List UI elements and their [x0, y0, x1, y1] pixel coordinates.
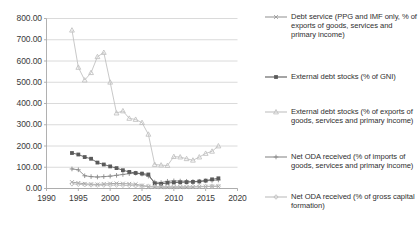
data-marker	[96, 161, 100, 165]
data-marker	[102, 163, 106, 167]
legend-item-label: Debt service (PPG and IMF only, % of exp…	[291, 12, 417, 39]
series-3	[70, 28, 221, 168]
x-axis-tick-label: 2020	[218, 193, 258, 203]
data-marker	[108, 165, 112, 169]
data-marker	[217, 176, 221, 180]
y-axis-tick-label: 0.00	[0, 183, 42, 193]
legend-item-label: Net ODA received (% of gross capital for…	[291, 192, 417, 210]
data-marker	[134, 171, 138, 175]
y-axis-tick-label: 100.00	[0, 162, 42, 172]
legend-marker-diamond-icon	[265, 192, 287, 202]
series-2	[70, 151, 220, 186]
series-line	[72, 169, 218, 183]
legend-item-5[interactable]: Net ODA received (% of gross capital for…	[265, 192, 417, 210]
legend-item-label: Net ODA received (% of imports of goods,…	[291, 152, 417, 170]
legend-marker-cross-bar-icon	[265, 152, 287, 162]
data-marker	[127, 170, 131, 174]
y-axis-tick-label: 400.00	[0, 98, 42, 108]
y-axis-tick-label: 500.00	[0, 77, 42, 87]
legend-marker-cross-icon	[265, 12, 287, 22]
legend-item-label: External debt stocks (% of GNI)	[291, 72, 417, 81]
legend-item-label: External debt stocks (% of exports of go…	[291, 107, 417, 125]
legend-marker-triangle-icon	[265, 107, 287, 117]
data-marker	[146, 173, 150, 177]
data-marker	[89, 157, 93, 161]
data-marker	[140, 172, 144, 176]
legend-item-4[interactable]: Net ODA received (% of imports of goods,…	[265, 152, 417, 170]
y-axis-tick-label: 700.00	[0, 34, 42, 44]
chart-container: 800.00700.00600.00500.00400.00300.00200.…	[0, 0, 420, 231]
data-marker	[121, 168, 125, 172]
legend-item-2[interactable]: External debt stocks (% of GNI)	[265, 72, 417, 82]
series-line	[72, 30, 218, 165]
chart-legend: Debt service (PPG and IMF only, % of exp…	[265, 0, 420, 231]
legend-marker-square-icon	[265, 72, 287, 82]
series-line	[72, 153, 218, 184]
y-axis-tick-label: 300.00	[0, 119, 42, 129]
data-marker	[191, 180, 195, 184]
data-marker	[76, 153, 80, 157]
data-marker	[70, 151, 74, 155]
data-marker	[204, 179, 208, 183]
y-axis-tick-label: 800.00	[0, 13, 42, 23]
y-axis-tick-label: 600.00	[0, 56, 42, 66]
data-marker	[210, 177, 214, 181]
data-marker	[83, 155, 87, 159]
legend-item-1[interactable]: Debt service (PPG and IMF only, % of exp…	[265, 12, 417, 39]
data-marker	[197, 180, 201, 184]
legend-item-3[interactable]: External debt stocks (% of exports of go…	[265, 107, 417, 125]
data-marker	[115, 166, 119, 170]
data-marker	[274, 75, 278, 79]
y-axis-tick-label: 200.00	[0, 141, 42, 151]
